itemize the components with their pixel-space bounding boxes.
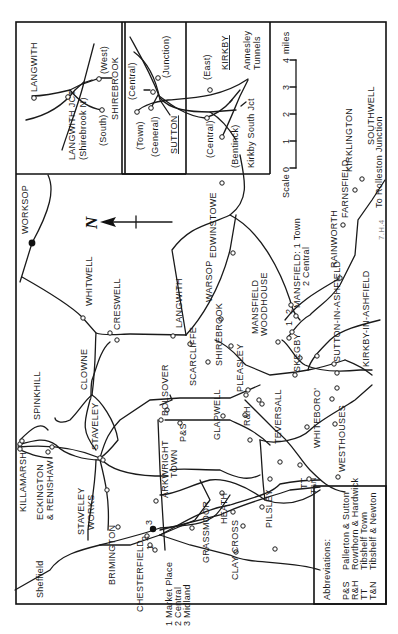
kirklington-label: KIRKLINGTON bbox=[344, 108, 354, 172]
teversall-label: TEVERSALL bbox=[273, 389, 283, 444]
svg-text:4: 4 bbox=[281, 58, 291, 63]
chesterfield-label: CHESTERFIELD bbox=[135, 540, 145, 612]
langwith-label: LANGWITH bbox=[29, 42, 39, 92]
tunnels-label: Tunnels bbox=[252, 36, 262, 70]
staveley-works-label-1: STAVELEY bbox=[76, 487, 86, 535]
north-arrow: N bbox=[82, 216, 172, 230]
svg-text:1: 1 bbox=[281, 139, 291, 144]
town-label: TOWN bbox=[169, 449, 179, 478]
rolleston-label: To Rolleston Junction bbox=[374, 116, 384, 208]
clowne-label: CLOWNE bbox=[79, 349, 89, 390]
svg-text:1: 1 bbox=[145, 545, 155, 550]
svg-text:3: 3 bbox=[144, 520, 154, 525]
langwith-jct-label: LANGWITH JCT bbox=[67, 90, 77, 160]
annesley-label: Annesley bbox=[242, 30, 252, 70]
kirkby-central-label: (Central) bbox=[205, 120, 215, 158]
svg-text:2: 2 bbox=[281, 112, 291, 117]
pleasley-label: PLEASLEY bbox=[235, 344, 245, 392]
svg-text:0: 0 bbox=[281, 167, 291, 172]
sheffield-label: Sheffield bbox=[35, 560, 45, 598]
sutton-junction-label: (Junction) bbox=[161, 35, 171, 78]
whitwell-label: WHITWELL bbox=[84, 256, 94, 306]
inset-langwith: LANGWITH LANGWITH JCT (Shirebrook N) (We… bbox=[26, 42, 120, 160]
scale-bar: 0 1 2 3 4 miles Scale bbox=[281, 31, 296, 198]
staveley-label: STAVELEY bbox=[90, 402, 100, 450]
westhouses-label: WESTHOUSES bbox=[337, 405, 347, 472]
north-symbol: N bbox=[82, 216, 101, 230]
eckington-label: ECKINGTON bbox=[35, 464, 45, 520]
west-label: (West) bbox=[99, 46, 109, 74]
rh-label: R&H bbox=[242, 406, 252, 426]
shirebrook-n-label: (Shirebrook N) bbox=[78, 97, 88, 160]
whiteboro-label: WHITEBORO' bbox=[312, 388, 322, 448]
ps-label: P&S bbox=[178, 423, 188, 442]
railway-map: LANGWITH LANGWITH JCT (Shirebrook N) (We… bbox=[0, 0, 398, 634]
sutton-in-ashfield-label: SUTTON-IN-ASHFIELD bbox=[332, 261, 342, 362]
brimington-label: BRIMINGTON bbox=[107, 525, 117, 585]
bentinck-label: (Bentinck) bbox=[230, 124, 240, 168]
worksop-label: WORKSOP bbox=[20, 185, 30, 234]
langwith-main-label: LANGWITH bbox=[174, 278, 184, 328]
sutton-general-label: (General) bbox=[150, 116, 160, 157]
inset-sutton-kirkby: (Central) (Junction) (Town) (General) SU… bbox=[127, 30, 262, 168]
svg-text:1: 1 bbox=[284, 321, 294, 326]
staveley-works-label-2: WORKS bbox=[86, 494, 96, 530]
mansfield-central-label: 2 Central bbox=[301, 247, 311, 286]
glapwell-label: GLAPWELL bbox=[212, 389, 222, 440]
south-label: (South) bbox=[98, 114, 108, 146]
killamarsh-label: KILLAMARSH bbox=[18, 452, 28, 512]
creswell-label: CRESWELL bbox=[112, 278, 122, 330]
svg-text:Tibshelf & Newton: Tibshelf & Newton bbox=[368, 492, 378, 570]
credit-mark: 7.H.4 bbox=[377, 219, 386, 240]
warsop-label: WARSOP bbox=[204, 261, 214, 302]
svg-text:2: 2 bbox=[284, 309, 294, 314]
spinkhill-label: SPINKHILL bbox=[32, 371, 42, 420]
sutton-label: SUTTON bbox=[169, 115, 179, 154]
clay-cross-label: CLAY CROSS bbox=[230, 520, 240, 580]
heath-label: HEATH bbox=[219, 493, 229, 524]
grassmoor-label: GRASSMOOR bbox=[201, 501, 211, 563]
chesterfield-key-3: 3 Midland bbox=[182, 584, 192, 626]
renishaw-label: & RENISHAW bbox=[45, 460, 55, 520]
rainworth-label: RAINWORTH bbox=[329, 210, 339, 268]
svg-text:3: 3 bbox=[281, 85, 291, 90]
shirebrook-main-label: SHIREBROOK bbox=[214, 303, 224, 366]
kirkby-in-ashfield-label: KIRKBY-IN-ASHFIELD bbox=[361, 270, 371, 367]
kirkby-south-jct-label: Kirkby South Jct bbox=[246, 98, 256, 168]
pilsley-label: PILSLEY bbox=[264, 489, 274, 528]
skegby-label: SKEGBY bbox=[292, 333, 302, 372]
kirkby-label: KIRKBY bbox=[220, 35, 230, 70]
scarcliffe-label: SCARCLIFFE bbox=[188, 327, 198, 386]
sutton-central-label: (Central) bbox=[127, 62, 137, 100]
svg-text:T&N: T&N bbox=[368, 581, 378, 600]
bolsover-label: BOLSOVER bbox=[160, 364, 170, 416]
mansfield-woodhouse-label: WOODHOUSE bbox=[259, 272, 269, 336]
edwinstowe-label: EDWINSTOWE bbox=[208, 192, 218, 258]
abbreviations-title: Abbreviations: bbox=[322, 539, 332, 600]
sutton-town-label: (Town) bbox=[135, 121, 145, 150]
worksop-station bbox=[29, 240, 36, 247]
svg-text:Scale: Scale bbox=[281, 174, 291, 198]
abbreviations-legend: Abbreviations: P&S Pallerton & Sutton R&… bbox=[322, 478, 378, 600]
tn-label: T&N bbox=[309, 477, 318, 494]
kirkby-east-label: (East) bbox=[202, 54, 212, 80]
svg-text:miles: miles bbox=[281, 31, 291, 54]
tt-label: TT bbox=[299, 477, 309, 489]
shirebrook-label: SHIREBROOK bbox=[110, 57, 120, 120]
svg-text:2: 2 bbox=[140, 536, 150, 541]
